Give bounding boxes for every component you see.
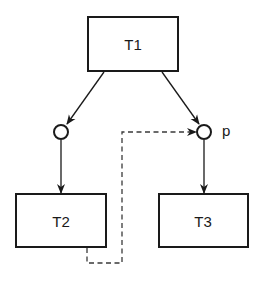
arc-t1-to-place-p bbox=[162, 72, 199, 124]
arc-t1-to-place-left bbox=[67, 72, 104, 124]
place-p-label: p bbox=[222, 122, 230, 139]
transition-t1-label: T1 bbox=[124, 36, 142, 53]
transition-t3: T3 bbox=[159, 194, 248, 247]
transition-t2: T2 bbox=[16, 194, 106, 247]
place-p bbox=[197, 125, 211, 139]
transition-t3-label: T3 bbox=[194, 213, 212, 230]
transition-t2-label: T2 bbox=[52, 213, 70, 230]
transition-t1: T1 bbox=[88, 17, 178, 71]
place-left bbox=[54, 125, 68, 139]
petri-net-diagram: T1 T2 T3 p bbox=[0, 0, 264, 281]
